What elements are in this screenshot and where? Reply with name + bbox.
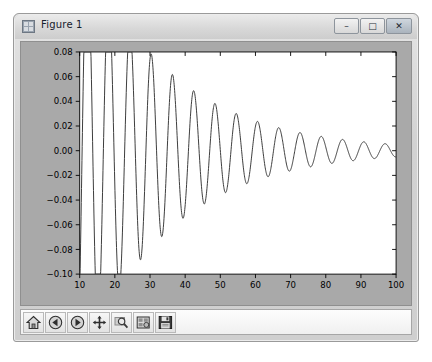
pan-button[interactable] — [89, 312, 110, 333]
back-button[interactable] — [45, 312, 66, 333]
zoom-button[interactable] — [111, 312, 132, 333]
floppy-disk-icon — [158, 315, 173, 330]
magnifier-icon — [114, 315, 129, 330]
house-icon — [26, 315, 41, 330]
maximize-icon: □ — [361, 21, 384, 32]
figure-canvas[interactable]: 1020304050607080901000.080.060.040.020.0… — [20, 41, 412, 306]
back-arrow-icon — [48, 315, 63, 330]
y-tick-label: −0.02 — [47, 170, 73, 180]
y-tick-label: −0.04 — [47, 195, 73, 205]
configure-subplots-button[interactable] — [133, 312, 154, 333]
y-tick-label: 0.06 — [54, 72, 73, 82]
axes-background — [80, 52, 396, 274]
axes: 1020304050607080901000.080.060.040.020.0… — [47, 47, 405, 290]
x-tick-label: 60 — [250, 280, 261, 290]
y-tick-label: −0.06 — [47, 220, 73, 230]
minimize-button[interactable]: – — [334, 18, 359, 34]
y-tick-label: 0.02 — [54, 121, 73, 131]
y-tick-label: 0.04 — [54, 96, 73, 106]
y-tick-label: −0.08 — [47, 245, 73, 255]
x-tick-label: 20 — [109, 280, 120, 290]
figure-window: Figure 1 – □ ✕ 1020304050607080901000.08… — [13, 13, 419, 342]
x-tick-label: 50 — [215, 280, 226, 290]
minimize-icon: – — [335, 21, 358, 32]
x-tick-label: 10 — [74, 280, 85, 290]
x-tick-label: 100 — [388, 280, 404, 290]
subplots-icon — [136, 315, 151, 330]
window-inner: Figure 1 – □ ✕ 1020304050607080901000.08… — [15, 15, 417, 340]
x-tick-label: 90 — [355, 280, 366, 290]
title-bar[interactable]: Figure 1 – □ ✕ — [15, 15, 417, 39]
x-tick-label: 80 — [320, 280, 331, 290]
x-tick-label: 30 — [145, 280, 156, 290]
desktop-backdrop: Figure 1 – □ ✕ 1020304050607080901000.08… — [0, 0, 432, 362]
damped-oscillation-chart: 1020304050607080901000.080.060.040.020.0… — [21, 42, 411, 305]
window-title: Figure 1 — [41, 19, 83, 30]
move-cross-icon — [92, 315, 107, 330]
y-tick-label: −0.10 — [47, 269, 73, 279]
save-button[interactable] — [155, 312, 176, 333]
navigation-toolbar — [20, 309, 412, 335]
forward-arrow-icon — [70, 315, 85, 330]
maximize-button[interactable]: □ — [360, 18, 385, 34]
y-tick-label: 0.08 — [54, 47, 73, 57]
close-button[interactable]: ✕ — [386, 18, 412, 34]
close-icon: ✕ — [387, 21, 411, 32]
forward-button[interactable] — [67, 312, 88, 333]
x-tick-label: 70 — [285, 280, 296, 290]
home-button[interactable] — [23, 312, 44, 333]
y-tick-label: 0.00 — [54, 146, 73, 156]
figure-grid-icon — [22, 20, 35, 33]
x-tick-label: 40 — [180, 280, 191, 290]
